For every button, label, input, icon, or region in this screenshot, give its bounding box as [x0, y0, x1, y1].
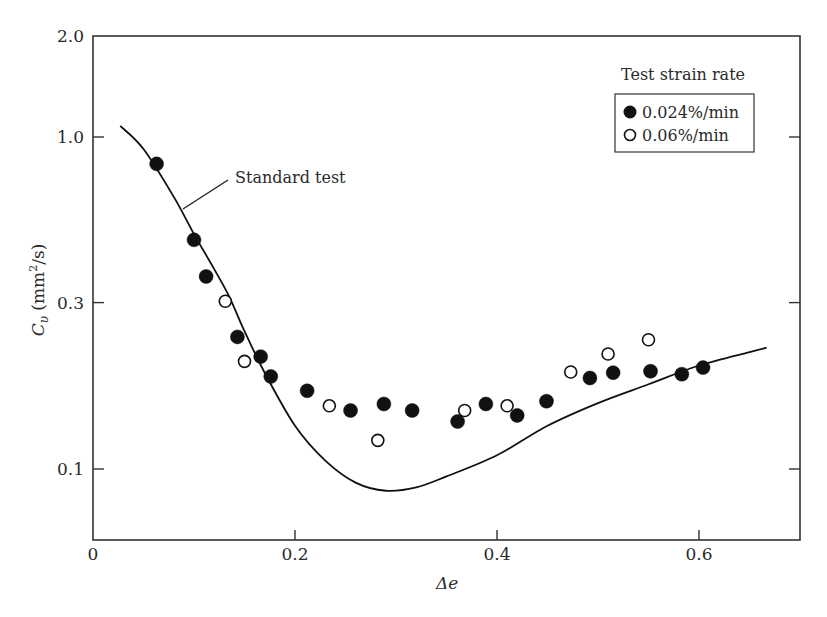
y-tick-label: 0.3 — [57, 293, 84, 313]
filled-data-point — [675, 367, 689, 381]
legend: Test strain rate 0.024%/min 0.06%/min — [615, 65, 754, 152]
filled-data-point — [606, 366, 620, 380]
open-data-point — [459, 405, 471, 417]
filled-data-point — [150, 157, 164, 171]
filled-data-point — [344, 404, 358, 418]
filled-data-point — [300, 384, 314, 398]
filled-data-point — [254, 350, 268, 364]
svg-text:Cυ (mm2/s): Cυ (mm2/s) — [27, 244, 51, 337]
open-data-point — [565, 366, 577, 378]
open-data-point — [643, 334, 655, 346]
x-tick-label: 0.4 — [483, 544, 510, 564]
annotation-leader-line — [183, 180, 228, 209]
open-data-point — [219, 295, 231, 307]
x-tick-label: 0.6 — [685, 544, 712, 564]
filled-data-point — [230, 330, 244, 344]
annotation-standard-test: Standard test — [235, 168, 346, 187]
filled-data-point — [583, 371, 597, 385]
legend-item-open: 0.06%/min — [642, 126, 729, 145]
x-tick-label: 0.2 — [281, 544, 308, 564]
y-tick-label: 1.0 — [57, 127, 84, 147]
y-axis-label: Cυ (mm2/s) — [27, 244, 51, 337]
filled-data-point — [264, 369, 278, 383]
filled-data-point — [479, 397, 493, 411]
data-points — [150, 157, 710, 446]
y-tick-label: 0.1 — [57, 459, 84, 479]
filled-data-point — [187, 233, 201, 247]
x-axis-label: Δe — [435, 573, 458, 593]
filled-data-point — [510, 408, 524, 422]
y-tick-label: 2.0 — [57, 26, 84, 46]
legend-item-filled: 0.024%/min — [642, 103, 739, 122]
filled-circle-icon — [624, 106, 637, 119]
filled-data-point — [377, 397, 391, 411]
standard-test-curve — [120, 126, 766, 491]
open-data-point — [239, 355, 251, 367]
open-data-point — [323, 400, 335, 412]
open-data-point — [602, 348, 614, 360]
x-tick-label: 0 — [88, 544, 99, 564]
filled-data-point — [696, 361, 710, 375]
open-data-point — [372, 434, 384, 446]
filled-data-point — [539, 394, 553, 408]
open-circle-icon — [625, 130, 636, 141]
filled-data-point — [199, 270, 213, 284]
legend-title: Test strain rate — [621, 65, 745, 84]
filled-data-point — [644, 364, 658, 378]
filled-data-point — [405, 404, 419, 418]
chart: 00.20.40.60.10.31.02.0 Standard test Tes… — [0, 0, 827, 617]
open-data-point — [501, 400, 513, 412]
